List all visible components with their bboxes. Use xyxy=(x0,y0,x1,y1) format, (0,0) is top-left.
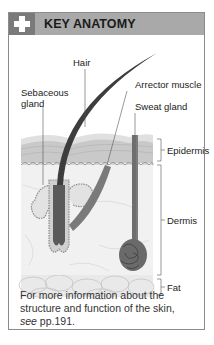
panel-title: KEY ANATOMY xyxy=(44,17,136,31)
label-dermis: Dermis xyxy=(167,215,197,226)
label-sweat-gland: Sweat gland xyxy=(135,101,187,112)
panel-header: KEY ANATOMY xyxy=(9,13,204,35)
caption-text: For more information about the structure… xyxy=(20,289,200,328)
see-reference: see xyxy=(20,315,37,327)
label-hair: Hair xyxy=(73,57,90,68)
plus-icon xyxy=(9,13,35,35)
skin-diagram: Hair Sebaceous gland Arrector muscle Swe… xyxy=(9,35,204,307)
key-anatomy-panel: KEY ANATOMY xyxy=(8,12,205,330)
caption-line-2: structure and function of the skin, xyxy=(20,302,200,315)
caption-line-3: see pp.191. xyxy=(20,315,200,328)
caption-line-1: For more information about the xyxy=(20,289,200,302)
label-epidermis: Epidermis xyxy=(167,145,209,156)
skin-cross-section-illustration xyxy=(9,35,204,307)
label-sebaceous-gland-line2: gland xyxy=(21,98,44,109)
label-sebaceous-gland-line1: Sebaceous xyxy=(21,87,69,98)
label-arrector-muscle: Arrector muscle xyxy=(135,79,202,90)
page-reference: pp.191. xyxy=(37,315,75,327)
